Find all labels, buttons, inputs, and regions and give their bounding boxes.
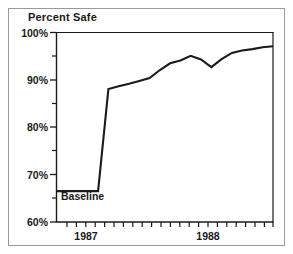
- y-tick-label-100: 100%: [8, 27, 48, 39]
- x-tick-label-1988: 1988: [185, 230, 231, 242]
- y-tick-label-60: 60%: [8, 216, 48, 228]
- y-major-ticks: [50, 33, 57, 223]
- y-tick-label-70: 70%: [8, 169, 48, 181]
- chart-figure: Percent Safe: [0, 0, 293, 254]
- y-tick-label-80: 80%: [8, 121, 48, 133]
- y-tick-label-90: 90%: [8, 74, 48, 86]
- x-minor-ticks: [67, 222, 273, 227]
- x-tick-label-1987: 1987: [63, 230, 109, 242]
- baseline-annotation: Baseline: [61, 190, 104, 202]
- data-series-line: [57, 46, 273, 191]
